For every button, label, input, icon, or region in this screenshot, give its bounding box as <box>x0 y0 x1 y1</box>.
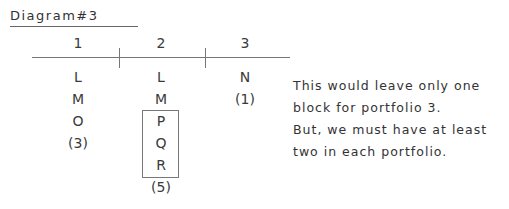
column-1-items: L M O (3) <box>58 66 98 154</box>
column-header-3: 3 <box>225 32 265 54</box>
block-item: P <box>141 110 181 132</box>
note-line: But, we must have at least <box>293 119 487 141</box>
column-3-items: N (1) <box>225 66 265 110</box>
block-count: (1) <box>225 88 265 110</box>
block-count: (5) <box>141 176 181 198</box>
header-divider <box>32 57 290 58</box>
diagram-title: Diagram#3 <box>10 8 98 23</box>
column-2-items: L M P Q R (5) <box>141 66 181 198</box>
block-item: L <box>58 66 98 88</box>
column-separator <box>119 48 120 68</box>
column-separator <box>205 48 206 68</box>
note-line: This would leave only one <box>293 75 487 97</box>
block-item: M <box>58 88 98 110</box>
block-item: O <box>58 110 98 132</box>
block-count: (3) <box>58 132 98 154</box>
title-underline <box>10 26 138 27</box>
column-header-2: 2 <box>141 32 181 54</box>
block-item: M <box>141 88 181 110</box>
block-item: N <box>225 66 265 88</box>
block-item: Q <box>141 132 181 154</box>
block-item: R <box>141 154 181 176</box>
column-header-1: 1 <box>58 32 98 54</box>
explanation-note: This would leave only one block for port… <box>293 75 487 163</box>
block-item: L <box>141 66 181 88</box>
note-line: block for portfolio 3. <box>293 97 487 119</box>
note-line: two in each portfolio. <box>293 141 487 163</box>
